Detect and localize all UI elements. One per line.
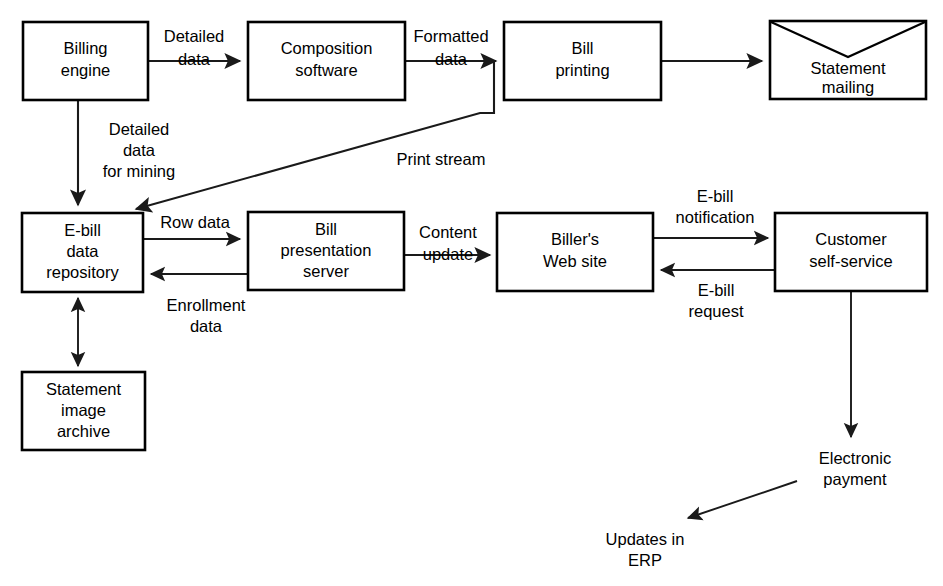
- node-composition-software[interactable]: Composition software: [248, 22, 405, 100]
- edge-ebill-request: E-bill request: [661, 270, 775, 320]
- label-electronic-payment-line2: payment: [823, 470, 887, 488]
- edge-updates-in-erp: [688, 481, 797, 518]
- label-updates-in-erp: Updates in ERP: [606, 530, 685, 569]
- node-statement-image-archive[interactable]: Statement image archive: [22, 372, 145, 450]
- edge-label-detailed-data-line2: data: [178, 50, 211, 68]
- node-billing-engine-label-line2: engine: [61, 61, 111, 79]
- node-billing-engine-label-line1: Billing: [63, 39, 107, 57]
- node-statement-mailing[interactable]: Statement mailing: [770, 21, 926, 99]
- node-billers-web-site-label-line2: Web site: [543, 252, 607, 270]
- label-electronic-payment-line1: Electronic: [819, 449, 891, 467]
- edge-label-detailed-mining-line2: data: [123, 141, 156, 159]
- node-ebill-data-repository-label-line2: data: [66, 242, 99, 260]
- edge-row-data: Row data: [143, 213, 240, 239]
- edge-label-content-update-line2: update: [423, 245, 473, 263]
- label-updates-in-erp-line2: ERP: [628, 551, 662, 569]
- edge-label-detailed-mining-line1: Detailed: [109, 120, 170, 138]
- edge-label-enrollment-data-line1: Enrollment: [167, 296, 246, 314]
- node-statement-mailing-label-line1: Statement: [810, 59, 886, 77]
- edge-label-print-stream: Print stream: [397, 150, 486, 168]
- edge-ebill-notification: E-bill notification: [653, 187, 768, 238]
- node-customer-self-service[interactable]: Customer self-service: [775, 213, 927, 291]
- edge-label-content-update-line1: Content: [419, 223, 477, 241]
- label-electronic-payment: Electronic payment: [819, 449, 891, 488]
- node-statement-image-archive-label-line1: Statement: [46, 380, 122, 398]
- edge-label-ebill-request-line2: request: [688, 302, 743, 320]
- edge-content-update: Content update: [404, 223, 490, 263]
- edge-detailed-data: Detailed data: [148, 27, 240, 68]
- node-bill-printing-label-line1: Bill: [571, 39, 593, 57]
- edge-label-detailed-mining-line3: for mining: [103, 162, 175, 180]
- edge-detailed-data-for-mining: Detailed data for mining: [78, 100, 175, 205]
- edge-label-formatted-data-line2: data: [435, 50, 468, 68]
- node-ebill-data-repository-label-line3: repository: [46, 263, 119, 281]
- edge-label-enrollment-data-line2: data: [190, 317, 223, 335]
- diagram-canvas: Detailed data Formatted data Detailed da…: [0, 0, 943, 586]
- node-billers-web-site[interactable]: Biller's Web site: [497, 213, 653, 291]
- node-ebill-data-repository-label-line1: E-bill: [64, 221, 101, 239]
- edge-enrollment-data: Enrollment data: [151, 274, 248, 335]
- label-updates-in-erp-line1: Updates in: [606, 530, 685, 548]
- edge-label-formatted-data-line1: Formatted: [413, 27, 488, 45]
- node-composition-software-label-line2: software: [295, 61, 357, 79]
- node-bill-presentation-server-label-line2: presentation: [281, 241, 372, 259]
- node-statement-image-archive-label-line2: image: [61, 401, 106, 419]
- edge-formatted-data: Formatted data: [405, 27, 496, 68]
- node-customer-self-service-label-line2: self-service: [809, 252, 892, 270]
- node-billing-engine[interactable]: Billing engine: [23, 22, 148, 100]
- flow-diagram: Detailed data Formatted data Detailed da…: [0, 0, 943, 586]
- node-bill-printing-label-line2: printing: [555, 61, 609, 79]
- node-customer-self-service-label-line1: Customer: [815, 230, 887, 248]
- edge-label-ebill-notification-line1: E-bill: [697, 187, 734, 205]
- node-bill-presentation-server-label-line3: server: [303, 262, 349, 280]
- node-bill-printing[interactable]: Bill printing: [504, 22, 661, 100]
- node-ebill-data-repository[interactable]: E-bill data repository: [22, 213, 143, 292]
- node-billers-web-site-label-line1: Biller's: [551, 230, 599, 248]
- node-statement-image-archive-label-line3: archive: [57, 422, 110, 440]
- edge-label-detailed-data-line1: Detailed: [164, 27, 225, 45]
- node-bill-presentation-server-label-line1: Bill: [315, 220, 337, 238]
- node-statement-mailing-label-line2: mailing: [822, 78, 874, 96]
- edge-label-row-data: Row data: [160, 213, 231, 231]
- edge-label-ebill-notification-line2: notification: [676, 208, 755, 226]
- node-bill-presentation-server[interactable]: Bill presentation server: [248, 212, 404, 290]
- edge-label-ebill-request-line1: E-bill: [698, 281, 735, 299]
- node-composition-software-label-line1: Composition: [281, 39, 373, 57]
